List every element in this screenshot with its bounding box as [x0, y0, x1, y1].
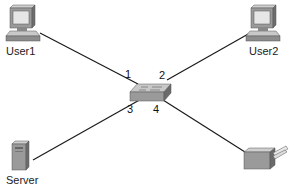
link-printer-switch [163, 100, 245, 152]
user1-pc-icon [6, 5, 40, 41]
switch-icon [130, 84, 171, 101]
user1-label: User1 [6, 45, 35, 57]
user2-pc-icon [246, 5, 280, 41]
link-user1-switch [40, 33, 138, 84]
connection-lines [0, 0, 293, 190]
link-user2-switch [167, 33, 250, 80]
server-icon [12, 141, 29, 170]
port-3-label: 3 [127, 103, 133, 115]
server-label: Server [6, 174, 38, 186]
network-diagram: User1 User2 Server 1 2 3 4 [0, 0, 293, 190]
port-4-label: 4 [153, 103, 159, 115]
user2-label: User2 [249, 45, 278, 57]
port-2-label: 2 [159, 69, 165, 81]
printer-icon [244, 146, 288, 169]
port-1-label: 1 [125, 68, 131, 80]
